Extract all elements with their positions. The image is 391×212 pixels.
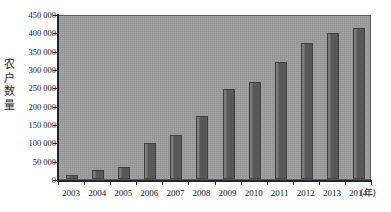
bar-chart-figure: 农户数量 050 000100 000150 000200 000250 000…	[0, 0, 391, 212]
bar	[144, 143, 156, 179]
bar	[249, 82, 261, 179]
y-axis-tick-mark	[53, 33, 58, 34]
x-axis-tick-mark	[345, 181, 346, 185]
plot-area	[58, 15, 371, 180]
y-axis-line	[57, 14, 59, 181]
x-axis-tick-mark	[241, 181, 242, 185]
x-axis-tick-mark	[84, 181, 85, 185]
y-axis-tick-label: 150 000	[14, 121, 56, 130]
bar	[353, 28, 365, 179]
x-axis-tick-mark	[162, 181, 163, 185]
y-axis-tick-mark	[53, 107, 58, 108]
bar	[196, 116, 208, 179]
x-axis-tick-mark	[215, 181, 216, 185]
y-axis-tick-mark	[53, 70, 58, 71]
y-axis-tick-mark	[53, 143, 58, 144]
y-axis-tick-mark	[53, 125, 58, 126]
y-axis-tick-mark	[53, 88, 58, 89]
x-axis-tick-mark	[58, 181, 59, 185]
bars-layer	[59, 16, 370, 179]
x-axis-tick-mark	[267, 181, 268, 185]
y-axis-tick-label: 450 000	[14, 11, 56, 20]
bar	[66, 175, 78, 179]
y-axis-tick-mark	[53, 162, 58, 163]
y-axis-tick-label: 50 000	[14, 158, 56, 167]
y-axis-tick-mark	[53, 52, 58, 53]
y-axis-tick-label: 300 000	[14, 66, 56, 75]
x-axis-tick-label-group: 2003200420052006200720082009201020112012…	[0, 188, 391, 206]
x-axis-unit-label: (年)	[360, 188, 376, 199]
y-axis-tick-label: 0	[14, 176, 56, 185]
bar	[92, 170, 104, 179]
bar	[327, 33, 339, 179]
x-axis-tick-mark	[293, 181, 294, 185]
y-axis-tick-label: 200 000	[14, 103, 56, 112]
x-axis-tick-mark	[371, 181, 372, 185]
y-axis-tick-label: 250 000	[14, 84, 56, 93]
y-axis-tick-label: 350 000	[14, 48, 56, 57]
y-axis-tick-label: 100 000	[14, 139, 56, 148]
x-axis-tick-mark	[136, 181, 137, 185]
bar	[170, 135, 182, 179]
bar	[223, 89, 235, 179]
bar	[118, 167, 130, 179]
x-axis-tick-mark	[110, 181, 111, 185]
y-axis-tick-mark	[53, 15, 58, 16]
y-axis-tick-label: 400 000	[14, 29, 56, 38]
bar	[275, 62, 287, 179]
bar	[301, 43, 313, 179]
x-axis-tick-mark	[188, 181, 189, 185]
x-axis-tick-mark	[319, 181, 320, 185]
y-axis-tick-label-group: 050 000100 000150 000200 000250 000300 0…	[14, 14, 56, 181]
